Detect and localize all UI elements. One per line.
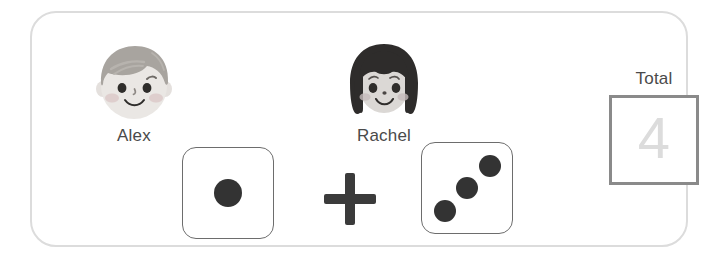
player-alex[interactable]: Alex xyxy=(79,41,189,146)
die-pip xyxy=(434,200,456,222)
plus-vertical-bar xyxy=(345,173,355,225)
die-pip xyxy=(479,155,501,177)
die-face-icon-1[interactable] xyxy=(182,147,274,239)
player-name-label: Alex xyxy=(79,126,189,146)
boy-face-icon xyxy=(92,41,176,125)
worksheet-canvas: Alex xyxy=(0,0,719,265)
total-section: Total 4 xyxy=(602,69,706,185)
die-pip xyxy=(456,177,478,199)
total-answer-box[interactable]: 4 xyxy=(609,95,699,185)
die-pip xyxy=(214,179,242,207)
die-face-icon-2[interactable] xyxy=(421,142,513,234)
total-label: Total xyxy=(602,69,706,89)
total-value: 4 xyxy=(638,109,670,171)
girl-face-icon xyxy=(342,41,426,125)
activity-panel: Alex xyxy=(30,11,688,247)
plus-icon xyxy=(324,173,376,225)
player-name-label: Rachel xyxy=(325,126,443,146)
player-rachel[interactable]: Rachel xyxy=(325,41,443,146)
